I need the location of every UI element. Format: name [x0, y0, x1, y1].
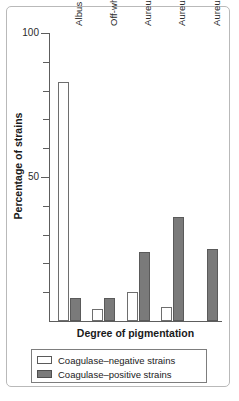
y-axis-minor-tick — [43, 235, 49, 236]
y-axis-major-tick — [41, 33, 49, 34]
legend-swatch-positive — [37, 370, 52, 378]
plot-area — [50, 33, 222, 321]
legend-item-positive: Coagulase–positive strains — [37, 367, 206, 381]
y-axis-minor-tick — [43, 292, 49, 293]
legend-label-positive: Coagulase–positive strains — [58, 369, 172, 380]
bar-positive — [104, 298, 115, 321]
bar-positive — [173, 217, 184, 321]
bar-negative — [127, 292, 138, 321]
bar-negative — [58, 82, 69, 321]
legend-label-negative: Coagulase–negative strains — [58, 355, 175, 366]
bar-positive — [207, 249, 218, 321]
y-axis-minor-tick — [43, 62, 49, 63]
legend-item-negative: Coagulase–negative strains — [37, 353, 206, 367]
y-axis-tick-labels: 50100 — [8, 0, 39, 401]
x-axis-title: Degree of pigmentation — [49, 327, 222, 339]
bar-positive — [70, 298, 81, 321]
y-axis-minor-tick — [43, 263, 49, 264]
y-axis-major-tick — [41, 177, 49, 178]
bar-negative — [161, 307, 172, 321]
legend: Coagulase–negative strains Coagulase–pos… — [31, 349, 207, 383]
y-axis-tick-label: 100 — [9, 28, 39, 38]
y-axis-minor-tick — [43, 206, 49, 207]
y-axis-minor-tick — [43, 119, 49, 120]
bar-negative — [92, 309, 103, 321]
legend-swatch-negative — [37, 356, 52, 364]
y-axis-tick-label: 50 — [9, 172, 39, 182]
y-axis-minor-tick — [43, 91, 49, 92]
x-axis-line — [49, 321, 222, 322]
y-axis-minor-tick — [43, 148, 49, 149]
bar-positive — [139, 252, 150, 321]
